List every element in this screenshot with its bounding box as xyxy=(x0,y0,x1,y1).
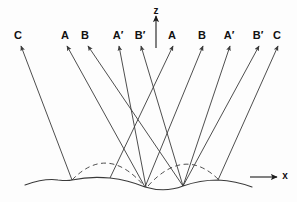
scattering-diagram: z x CABA′B′ABA′B′C xyxy=(0,0,297,202)
beam-a-left-label: A xyxy=(61,30,69,41)
beam-c-right-label: C xyxy=(273,30,281,41)
beam-bprime-left-label: B′ xyxy=(135,30,146,41)
beam-b-left xyxy=(88,46,183,186)
beam-bprime-right-label: B′ xyxy=(253,30,264,41)
beam-aprime-right xyxy=(183,46,230,186)
beam-c-left xyxy=(21,46,72,180)
beam-a-left xyxy=(67,46,145,187)
z-axis-label: z xyxy=(154,6,159,16)
beam-b-right-label: B xyxy=(198,30,206,41)
beam-b-left-label: B xyxy=(81,30,89,41)
beam-aprime-left xyxy=(119,46,146,187)
beam-a-right xyxy=(110,46,173,178)
beam-c-left-label: C xyxy=(14,30,22,41)
beam-aprime-right-label: A′ xyxy=(224,30,235,41)
beam-a-right-label: A xyxy=(168,30,176,41)
x-axis-label: x xyxy=(282,171,288,181)
beam-bprime-left xyxy=(141,46,183,186)
beam-aprime-left-label: A′ xyxy=(113,30,124,41)
beam-lines-group xyxy=(21,46,278,187)
